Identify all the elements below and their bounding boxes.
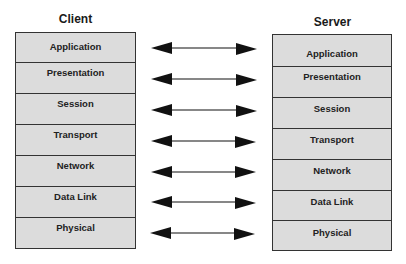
arrow-presentation bbox=[151, 73, 257, 86]
arrow-data-link bbox=[151, 196, 256, 209]
arrow-application bbox=[151, 42, 257, 55]
arrow-transport bbox=[151, 135, 256, 148]
arrow-session bbox=[151, 104, 257, 117]
arrow-network bbox=[151, 166, 256, 178]
arrow-physical bbox=[150, 227, 255, 240]
connection-arrows bbox=[0, 0, 406, 264]
